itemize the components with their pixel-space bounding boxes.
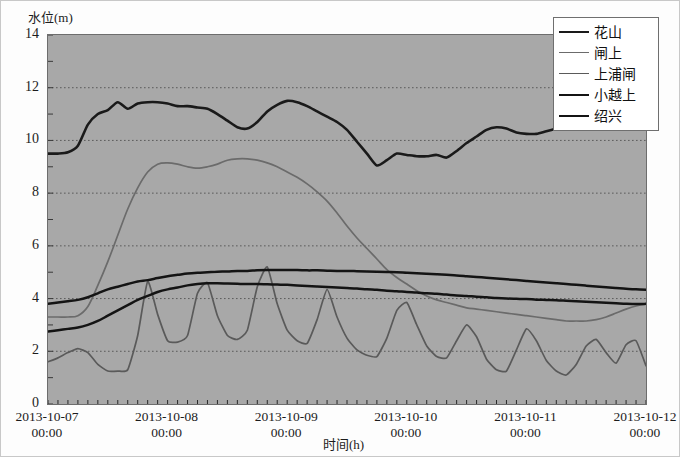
x-axis-tick: 2013-10-0700:00 [0, 409, 107, 441]
legend-item: 闸上 [559, 42, 653, 63]
legend-label: 上浦闸 [594, 67, 636, 81]
legend-label: 小越上 [594, 88, 636, 102]
legend-item: 上浦闸 [559, 63, 653, 84]
legend-label: 闸上 [594, 46, 622, 60]
y-axis-minor-ticks [48, 35, 53, 404]
legend-line-swatch [559, 73, 589, 74]
legend-line-swatch [559, 52, 589, 53]
x-axis-minor-ticks [48, 400, 646, 404]
y-axis-tick: 2 [5, 342, 39, 358]
legend-item: 花山 [559, 21, 653, 42]
y-axis-tick-labels: 14121086420 [5, 1, 39, 457]
x-tick-date: 2013-10-12 [585, 409, 680, 425]
x-tick-date: 2013-10-11 [465, 409, 585, 425]
y-axis-tick: 10 [5, 131, 39, 147]
legend-line-swatch [559, 31, 589, 33]
series-line-绍兴 [48, 283, 646, 331]
x-tick-date: 2013-10-07 [0, 409, 107, 425]
x-tick-time: 00:00 [0, 425, 107, 441]
y-axis-tick: 8 [5, 184, 39, 200]
x-tick-date: 2013-10-09 [226, 409, 346, 425]
x-axis-tick: 2013-10-1100:00 [465, 409, 585, 441]
x-axis-tick: 2013-10-1200:00 [585, 409, 680, 441]
y-axis-tick: 14 [5, 26, 39, 42]
legend-line-swatch [559, 94, 589, 96]
x-tick-time: 00:00 [107, 425, 227, 441]
y-axis-tick: 12 [5, 79, 39, 95]
x-tick-time: 00:00 [465, 425, 585, 441]
chart-legend: 花山闸上上浦闸小越上绍兴 [553, 17, 659, 131]
y-axis-tick: 4 [5, 290, 39, 306]
x-tick-date: 2013-10-10 [346, 409, 466, 425]
legend-line-swatch [559, 115, 589, 117]
legend-label: 绍兴 [594, 109, 622, 123]
x-axis-title: 时间(h) [323, 434, 364, 453]
legend-item: 小越上 [559, 84, 653, 105]
chart-frame: 水位(m) 14121086420 2013-10-0700:002013-10… [0, 0, 680, 457]
series-line-闸上 [48, 159, 646, 321]
legend-item: 绍兴 [559, 105, 653, 126]
x-tick-date: 2013-10-08 [107, 409, 227, 425]
y-axis-tick: 6 [5, 237, 39, 253]
x-axis-tick: 2013-10-0800:00 [107, 409, 227, 441]
legend-label: 花山 [594, 25, 622, 39]
x-tick-time: 00:00 [585, 425, 680, 441]
